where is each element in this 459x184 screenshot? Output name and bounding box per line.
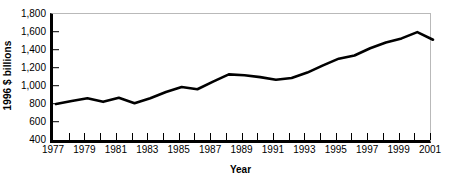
x-axis-tick <box>194 133 195 140</box>
data-series-line <box>56 15 433 141</box>
x-axis-tick <box>210 133 211 140</box>
x-axis-tick <box>336 133 337 140</box>
x-axis-tick <box>289 133 290 140</box>
x-axis-tick-labels: 1977197919811983198519871989199119931995… <box>50 145 431 161</box>
y-axis-tick <box>53 67 59 68</box>
x-axis-tick <box>242 133 243 140</box>
x-tick-label: 1997 <box>356 145 378 155</box>
x-tick-label: 1985 <box>168 145 190 155</box>
y-tick-label: 1,800 <box>21 9 46 19</box>
x-tick-label: 1979 <box>73 145 95 155</box>
x-axis-tick <box>69 133 70 140</box>
x-tick-label: 1999 <box>387 145 409 155</box>
y-tick-label: 800 <box>29 99 46 109</box>
x-tick-label: 1989 <box>230 145 252 155</box>
x-axis-tick <box>226 133 227 140</box>
y-axis-title: 1996 $ billions <box>0 0 16 150</box>
x-axis-tick <box>100 133 101 140</box>
y-tick-label: 600 <box>29 117 46 127</box>
y-axis-title-text: 1996 $ billions <box>3 40 14 110</box>
y-tick-label: 1,600 <box>21 27 46 37</box>
plot-inner <box>53 14 430 140</box>
y-axis-tick <box>53 103 59 104</box>
x-axis-tick <box>383 133 384 140</box>
x-tick-label: 1983 <box>136 145 158 155</box>
x-axis-title: Year <box>50 164 431 175</box>
plot-area <box>50 13 431 143</box>
x-tick-label: 1991 <box>262 145 284 155</box>
x-axis-tick <box>147 133 148 140</box>
y-tick-label: 1,400 <box>21 45 46 55</box>
x-axis-tick <box>132 133 133 140</box>
x-axis-tick <box>414 133 415 140</box>
y-axis-tick <box>53 85 59 86</box>
x-axis-tick <box>320 133 321 140</box>
x-axis-tick <box>304 133 305 140</box>
y-tick-label: 1,200 <box>21 63 46 73</box>
x-tick-label: 1987 <box>199 145 221 155</box>
x-axis-tick <box>367 133 368 140</box>
x-tick-label: 2001 <box>419 145 441 155</box>
x-tick-label: 1981 <box>105 145 127 155</box>
x-tick-label: 1977 <box>42 145 64 155</box>
x-axis-tick <box>84 133 85 140</box>
x-axis-tick <box>257 133 258 140</box>
y-axis-tick <box>53 121 59 122</box>
y-tick-label: 1,000 <box>21 81 46 91</box>
x-axis-tick <box>351 133 352 140</box>
x-axis-tick <box>273 133 274 140</box>
chart-figure: 1996 $ billions 4006008001,0001,2001,400… <box>0 0 459 184</box>
y-axis-tick <box>53 49 59 50</box>
x-axis-tick <box>163 133 164 140</box>
x-axis-tick <box>116 133 117 140</box>
y-axis-tick <box>53 31 59 32</box>
x-tick-label: 1993 <box>293 145 315 155</box>
x-axis-tick <box>430 133 431 140</box>
x-axis-tick <box>399 133 400 140</box>
y-axis-tick-labels: 4006008001,0001,2001,4001,6001,800 <box>16 0 48 150</box>
x-tick-label: 1995 <box>325 145 347 155</box>
x-axis-tick <box>179 133 180 140</box>
